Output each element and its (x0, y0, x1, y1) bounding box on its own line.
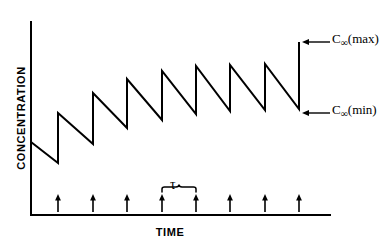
cmax-leader-arrow (302, 39, 330, 45)
cmin-qualifier: (min) (348, 102, 377, 117)
x-axis-title: TIME (110, 226, 230, 238)
cmin-subscript-infinity: ∞ (341, 108, 348, 119)
dose-arrow-8 (296, 194, 302, 212)
tau-interval-brace (162, 185, 196, 193)
cmin-symbol: C (332, 102, 341, 117)
tau-symbol-label: τ (170, 178, 176, 192)
multiple-dose-concentration-figure: CONCENTRATION TIME C∞(max) C∞(min) τ (0, 0, 391, 248)
cmax-symbol: C (332, 31, 341, 46)
dose-arrow-1 (55, 194, 61, 212)
concentration-curve (31, 42, 299, 163)
dose-arrow-7 (262, 194, 268, 212)
dose-arrow-2 (90, 194, 96, 212)
cmin-leader-arrow (302, 110, 330, 116)
dose-arrow-group (55, 194, 302, 212)
dose-arrow-3 (124, 194, 130, 212)
y-axis-title: CONCENTRATION (15, 53, 27, 183)
cmax-annotation-label: C∞(max) (332, 32, 379, 48)
cmax-subscript-infinity: ∞ (341, 37, 348, 48)
cmax-qualifier: (max) (348, 31, 379, 46)
annotation-arrow-group (302, 39, 330, 116)
cmin-annotation-label: C∞(min) (332, 103, 377, 119)
dose-arrow-5 (193, 194, 199, 212)
dose-arrow-4 (159, 194, 165, 212)
dose-arrow-6 (227, 194, 233, 212)
